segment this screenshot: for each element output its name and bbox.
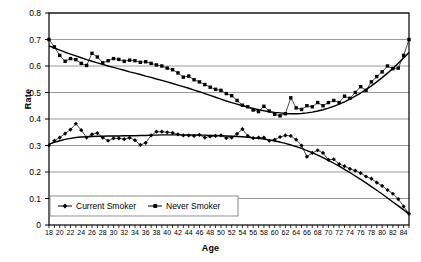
data-point-marker [139,61,142,64]
data-point-marker [278,114,281,117]
y-tick-label: 0.7 [11,36,41,44]
data-point-marker [160,130,164,134]
data-point-marker [69,57,72,60]
series-data-line [49,40,409,116]
data-point-marker [219,89,222,92]
x-tick-label: 84 [394,229,414,236]
data-point-marker [47,38,50,41]
series-never-smoker [47,38,410,118]
y-tick-label: 0.4 [11,115,41,123]
legend: Current SmokerNever Smoker [50,196,238,216]
legend-label: Current Smoker [76,201,136,211]
data-point-marker [122,137,126,141]
data-point-marker [85,64,88,67]
data-point-marker [198,80,201,83]
data-point-marker [225,92,228,95]
data-point-marker [63,60,66,63]
data-point-marker [90,52,93,55]
data-point-marker [160,64,163,67]
y-tick-label: 0.8 [11,9,41,17]
data-point-marker [354,91,357,94]
data-point-marker [407,38,410,41]
y-tick-label: 0 [11,221,41,229]
data-point-marker [176,71,179,74]
data-point-marker [166,66,169,69]
data-point-marker [342,164,346,168]
data-point-marker [359,171,363,175]
data-point-marker [305,155,309,159]
data-point-marker [397,66,400,69]
data-point-marker [144,60,147,63]
data-point-marker [111,136,115,140]
data-point-marker [311,105,314,108]
data-point-marker [187,74,190,77]
data-point-marker [235,99,238,102]
data-point-marker [154,130,158,134]
data-point-marker [289,96,292,99]
data-point-marker [182,75,185,78]
data-point-marker [305,104,308,107]
data-point-marker [203,83,206,86]
chart-container: Rate Age 00.10.20.30.40.50.60.70.8 18202… [0,0,421,262]
data-point-marker [316,101,319,104]
data-point-marker [165,130,169,134]
data-point-marker [80,62,83,65]
data-point-marker [112,57,115,60]
data-point-marker [300,108,303,111]
data-point-marker [155,63,158,66]
data-point-marker [123,60,126,63]
y-tick-label: 0.3 [11,142,41,150]
data-point-marker [375,75,378,78]
data-point-marker [289,134,293,138]
y-tick-label: 0.2 [11,168,41,176]
data-point-marker [364,174,368,178]
legend-label: Never Smoker [166,201,220,211]
data-point-marker [117,136,121,140]
plot-area: Current SmokerNever Smoker [0,0,421,262]
data-point-marker [133,59,136,62]
data-point-marker [203,135,207,139]
data-point-marker [370,80,373,83]
data-point-marker [316,148,320,152]
data-point-marker [106,59,109,62]
data-point-marker [294,106,297,109]
legend-marker-square [153,204,157,208]
data-point-marker [214,88,217,91]
data-point-marker [171,68,174,71]
data-point-marker [128,58,131,61]
series-trend-line [49,46,409,114]
x-axis-title: Age [0,243,421,253]
data-point-marker [321,104,324,107]
data-point-marker [262,105,265,108]
data-point-marker [359,85,362,88]
data-point-marker [106,139,110,143]
data-point-marker [380,70,383,73]
data-point-marker [343,95,346,98]
y-tick-label: 0.6 [11,62,41,70]
y-tick-label: 0.5 [11,89,41,97]
data-point-marker [278,135,282,139]
data-point-marker [74,58,77,61]
data-point-marker [149,62,152,65]
data-point-marker [327,101,330,104]
data-point-marker [386,64,389,67]
y-tick-label: 0.1 [11,195,41,203]
data-point-marker [96,55,99,58]
data-point-marker [192,78,195,81]
data-point-marker [117,58,120,61]
data-point-marker [348,167,352,171]
data-point-marker [332,99,335,102]
data-point-marker [230,94,233,97]
data-point-marker [208,86,211,89]
data-point-marker [58,54,61,57]
data-point-marker [283,133,287,137]
